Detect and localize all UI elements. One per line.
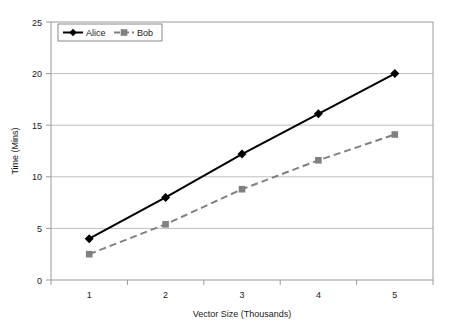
legend-marker-square-icon — [121, 29, 128, 36]
y-axis-ticks — [46, 22, 51, 280]
series-bob-marker-1 — [86, 251, 93, 258]
y-axis-label-5: 5 — [37, 224, 42, 234]
y-axis-title: Time (Mins) — [10, 127, 20, 174]
line-chart: 25 20 15 10 5 0 1 2 3 4 5 Vector Size (T… — [0, 0, 454, 330]
y-axis-label-0: 0 — [37, 276, 42, 286]
y-axis-label-20: 20 — [32, 69, 42, 79]
legend: Alice Bob — [58, 24, 162, 41]
x-axis-label-5: 5 — [392, 290, 397, 300]
y-axis-label-25: 25 — [32, 18, 42, 28]
x-axis-label-4: 4 — [316, 290, 321, 300]
x-axis-title: Vector Size (Thousands) — [193, 309, 292, 319]
series-bob-marker-3 — [239, 186, 246, 193]
series-bob-marker-4 — [315, 157, 322, 164]
x-axis-label-2: 2 — [163, 290, 168, 300]
x-axis-ticks — [51, 280, 433, 285]
series-bob-marker-2 — [162, 221, 169, 228]
legend-label-alice: Alice — [86, 28, 106, 38]
x-axis-label-1: 1 — [87, 290, 92, 300]
chart-canvas: 25 20 15 10 5 0 1 2 3 4 5 Vector Size (T… — [0, 0, 454, 330]
legend-label-bob: Bob — [137, 28, 153, 38]
x-axis-label-3: 3 — [239, 290, 244, 300]
y-axis-label-15: 15 — [32, 121, 42, 131]
series-bob-marker-5 — [392, 131, 399, 138]
y-axis-label-10: 10 — [32, 172, 42, 182]
